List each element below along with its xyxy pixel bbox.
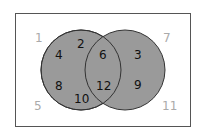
label-outside: 5 bbox=[34, 99, 42, 113]
label-set-a: 4 bbox=[55, 48, 63, 62]
label-set-b: 3 bbox=[134, 48, 142, 62]
label-set-a: 8 bbox=[55, 79, 63, 93]
label-set-a: 2 bbox=[77, 37, 85, 51]
label-set-b: 9 bbox=[134, 78, 142, 92]
label-outside: 11 bbox=[162, 99, 177, 113]
label-intersection: 12 bbox=[96, 79, 111, 93]
label-outside: 7 bbox=[163, 31, 171, 45]
label-set-a: 10 bbox=[74, 92, 89, 106]
venn-diagram: 1 7 5 11 2 4 8 10 6 12 3 9 bbox=[0, 0, 197, 132]
label-intersection: 6 bbox=[99, 48, 107, 62]
set-b-circle bbox=[85, 30, 165, 110]
label-outside: 1 bbox=[35, 31, 43, 45]
